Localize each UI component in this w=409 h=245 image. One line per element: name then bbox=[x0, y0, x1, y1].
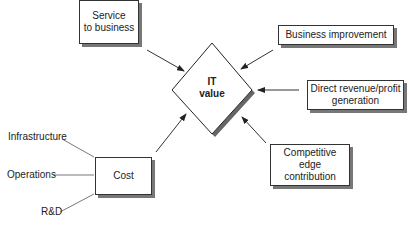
label-rd: R&D bbox=[41, 206, 62, 218]
label-infrastructure: Infrastructure bbox=[8, 131, 67, 143]
box-direct-revenue: Direct revenue/profit generation bbox=[307, 80, 404, 110]
competitive-line3: contribution bbox=[284, 171, 337, 183]
arrow-service bbox=[147, 50, 184, 71]
arrow-cost bbox=[156, 114, 186, 152]
arrow-business-improvement bbox=[241, 50, 273, 69]
competitive-line2: edge bbox=[284, 159, 337, 171]
cost-label: Cost bbox=[113, 170, 134, 182]
service-line1: Service bbox=[84, 10, 135, 22]
label-operations: Operations bbox=[7, 169, 56, 181]
box-competitive-edge: Competitive edge contribution bbox=[270, 144, 350, 186]
box-business-improvement: Business improvement bbox=[278, 25, 394, 45]
center-line1: IT bbox=[192, 76, 232, 88]
direct-revenue-line2: generation bbox=[310, 95, 400, 107]
it-value-label: IT value bbox=[192, 76, 232, 100]
line-rd bbox=[60, 194, 94, 212]
box-cost: Cost bbox=[95, 157, 152, 195]
direct-revenue-line1: Direct revenue/profit bbox=[310, 83, 400, 95]
competitive-line1: Competitive bbox=[284, 147, 337, 159]
box-service-to-business: Service to business bbox=[79, 0, 139, 44]
business-improvement-label: Business improvement bbox=[285, 29, 386, 41]
arrow-competitive-edge bbox=[242, 117, 266, 143]
service-line2: to business bbox=[84, 22, 135, 34]
center-line2: value bbox=[192, 88, 232, 100]
